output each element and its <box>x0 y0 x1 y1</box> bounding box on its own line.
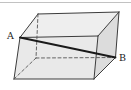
canvas: AB <box>0 0 131 90</box>
box-diagram: AB <box>0 0 131 90</box>
vertex-label-A: A <box>6 30 14 41</box>
edge-back-bottom-hidden <box>36 58 116 59</box>
vertex-label-B: B <box>119 52 126 63</box>
box-figure-svg: AB <box>0 0 131 90</box>
